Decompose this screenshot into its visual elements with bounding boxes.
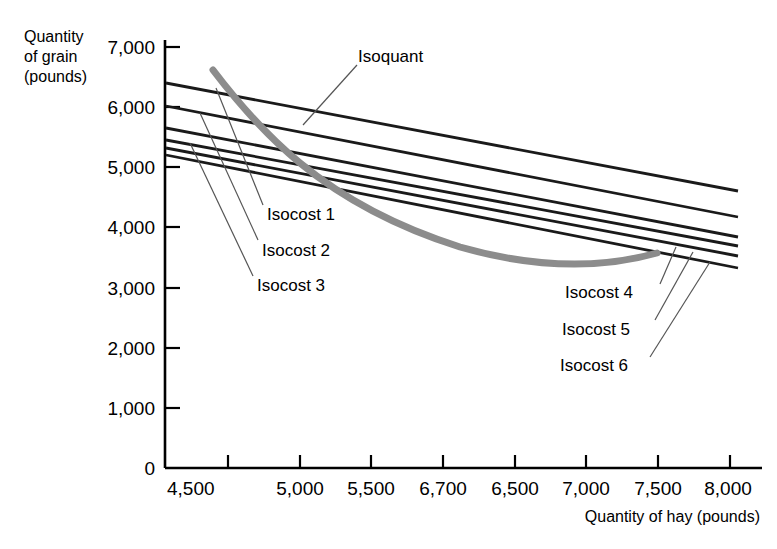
- x-tick-label-5500: 5,500: [347, 478, 395, 499]
- chart-canvas: Quantity of grain (pounds) 0 1,000 2,000…: [0, 0, 777, 549]
- y-tick-label-3000: 3,000: [107, 278, 155, 299]
- label-isocost-3: Isocost 3: [257, 276, 325, 295]
- x-axis: [165, 455, 762, 468]
- leader-isocost-2: [200, 113, 258, 240]
- x-axis-tick-labels: 4,500 5,000 5,500 6,700 6,500 7,000 7,50…: [167, 478, 752, 499]
- isocost-line-1[interactable]: [166, 83, 738, 191]
- y-tick-label-4000: 4,000: [107, 217, 155, 238]
- x-tick-label-6700: 6,700: [419, 478, 467, 499]
- isocost-line-3[interactable]: [166, 128, 738, 237]
- x-axis-title: Quantity of hay (pounds): [585, 508, 760, 525]
- y-axis: [165, 40, 180, 468]
- y-axis-title-line-3: (pounds): [24, 68, 87, 85]
- y-tick-label-1000: 1,000: [107, 398, 155, 419]
- x-tick-label-7000: 7,000: [562, 478, 610, 499]
- label-isocost-6: Isocost 6: [560, 356, 628, 375]
- x-tick-label-7500: 7,500: [634, 478, 682, 499]
- chart-figure: Quantity of grain (pounds) 0 1,000 2,000…: [0, 0, 777, 549]
- y-axis-title-line-2: of grain: [24, 48, 77, 65]
- y-axis-title: Quantity of grain (pounds): [24, 28, 87, 85]
- y-tick-label-7000: 7,000: [107, 37, 155, 58]
- y-tick-label-6000: 6,000: [107, 97, 155, 118]
- x-tick-label-8000: 8,000: [704, 478, 752, 499]
- y-tick-label-5000: 5,000: [107, 157, 155, 178]
- isocost-line-2[interactable]: [166, 106, 738, 217]
- isocost-line-5[interactable]: [166, 148, 738, 256]
- isoquant-curve[interactable]: [213, 70, 657, 264]
- y-tick-label-0: 0: [144, 458, 155, 479]
- label-isoquant: Isoquant: [358, 47, 423, 66]
- label-isocost-5: Isocost 5: [562, 320, 630, 339]
- leader-isocost-5: [655, 252, 693, 320]
- leader-isoquant: [303, 65, 357, 125]
- x-tick-label-4500: 4,500: [167, 478, 215, 499]
- label-isocost-2: Isocost 2: [262, 241, 330, 260]
- x-tick-label-6500: 6,500: [491, 478, 539, 499]
- x-tick-label-5000: 5,000: [276, 478, 324, 499]
- label-isocost-1: Isocost 1: [267, 205, 335, 224]
- y-axis-tick-labels: 0 1,000 2,000 3,000 4,000 5,000 6,000 7,…: [107, 37, 155, 479]
- isocost-lines: [166, 83, 738, 268]
- y-axis-title-line-1: Quantity: [24, 28, 84, 45]
- isocost-line-4[interactable]: [166, 140, 738, 246]
- y-tick-label-2000: 2,000: [107, 338, 155, 359]
- label-isocost-4: Isocost 4: [565, 283, 633, 302]
